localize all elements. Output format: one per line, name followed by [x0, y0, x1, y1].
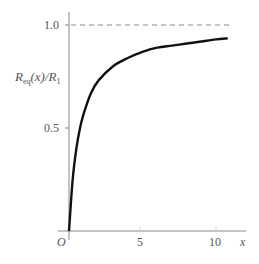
data-curve — [69, 38, 228, 231]
y-axis-label: Req(x)/R1 — [15, 70, 61, 86]
x-tick-label-5: 5 — [137, 236, 143, 248]
x-axis-label: x — [240, 236, 245, 248]
y-tick-label-0.5: 0.5 — [44, 122, 59, 134]
chart-canvas — [0, 0, 259, 264]
x-tick-label-10: 10 — [209, 236, 221, 248]
y-tick-label-1.0: 1.0 — [44, 19, 59, 31]
origin-label: O — [57, 236, 66, 248]
